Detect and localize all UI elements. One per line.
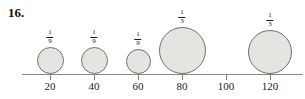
axis-tick-label: 40 (89, 81, 100, 92)
fraction-numerator: 1 (178, 9, 186, 16)
bubble-fraction-label: 13 (178, 9, 186, 25)
bubble-fraction-label: 19 (134, 31, 142, 47)
fraction-denominator: 3 (266, 21, 274, 28)
fraction-numerator: 1 (266, 12, 274, 19)
bubble-fraction-label: 13 (266, 12, 274, 28)
data-bubble (37, 47, 64, 74)
fraction-denominator: 9 (90, 38, 98, 45)
data-bubble (126, 49, 151, 74)
axis-tick-label: 60 (133, 81, 144, 92)
axis-line (22, 74, 303, 75)
axis-tick-label: 100 (218, 81, 235, 92)
number-line-plot: 20406080100120 1919191313 (0, 0, 305, 99)
fraction-denominator: 9 (134, 40, 142, 47)
axis-tick-label: 20 (45, 81, 56, 92)
fraction-numerator: 1 (46, 29, 54, 36)
bubble-number-line-figure: 16. 20406080100120 1919191313 (0, 0, 305, 99)
fraction-numerator: 1 (134, 31, 142, 38)
axis-tick-label: 120 (262, 81, 279, 92)
axis-tick-label: 80 (177, 81, 188, 92)
data-bubble (159, 27, 206, 74)
bubble-fraction-label: 19 (46, 29, 54, 45)
bubble-fraction-label: 19 (90, 29, 98, 45)
fraction-numerator: 1 (90, 29, 98, 36)
fraction-denominator: 3 (178, 18, 186, 25)
data-bubble (81, 47, 108, 74)
fraction-denominator: 9 (46, 38, 54, 45)
data-bubble (248, 30, 292, 74)
